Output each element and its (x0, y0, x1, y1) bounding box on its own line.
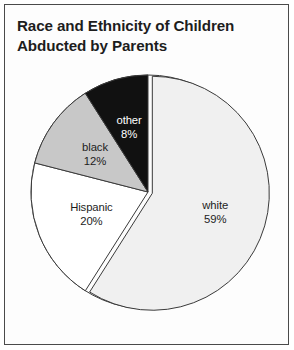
pie-label-value-white: 59% (204, 213, 226, 225)
pie-chart-area: white59%Hispanic20%black12%other8% (5, 5, 288, 344)
pie-label-name-white: white (201, 199, 228, 211)
pie-label-value-other: 8% (121, 128, 137, 140)
pie-label-name-other: other (116, 114, 142, 126)
pie-slices-group (31, 75, 269, 310)
figure-container: Race and Ethnicity of Children Abducted … (0, 0, 294, 350)
pie-chart-svg: white59%Hispanic20%black12%other8% (5, 5, 288, 344)
pie-label-name-black: black (82, 141, 108, 153)
pie-label-value-hispanic: 20% (80, 215, 102, 227)
pie-label-value-black: 12% (84, 155, 106, 167)
pie-label-name-hispanic: Hispanic (70, 201, 113, 213)
